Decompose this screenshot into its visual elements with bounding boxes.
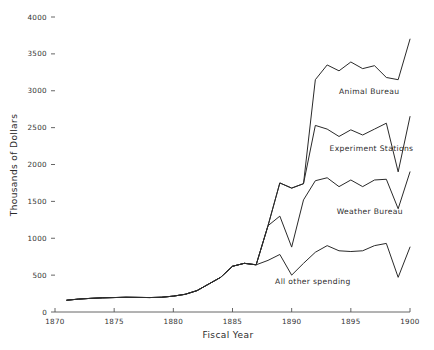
y-tick-label: 2000 (28, 160, 48, 169)
x-tick-label: 1880 (164, 317, 184, 326)
x-tick-label: 1890 (282, 317, 302, 326)
series-line (67, 243, 410, 300)
x-axis-ticks: 1870187518801885189018951900 (45, 308, 420, 326)
series-lines (67, 39, 410, 300)
series-annotation-label: Weather Bureau (337, 207, 403, 216)
y-tick-label: 3500 (28, 49, 48, 58)
y-tick-label: 1500 (28, 197, 48, 206)
y-tick-label: 0 (42, 308, 47, 317)
y-tick-label: 3000 (28, 86, 48, 95)
y-axis-ticks: 05001000150020002500300035004000 (28, 13, 56, 317)
y-tick-label: 4000 (28, 13, 48, 22)
y-tick-label: 2500 (28, 123, 48, 132)
series-annotation-label: Animal Bureau (339, 87, 399, 96)
y-tick-label: 500 (32, 271, 47, 280)
chart-container: 05001000150020002500300035004000 1870187… (0, 0, 434, 350)
x-tick-label: 1875 (104, 317, 124, 326)
x-tick-label: 1885 (223, 317, 243, 326)
series-annotation-label: All other spending (275, 277, 351, 286)
y-axis-title: Thousands of Dollars (9, 114, 19, 217)
y-tick-label: 1000 (28, 234, 48, 243)
series-line (67, 39, 410, 300)
line-chart: 05001000150020002500300035004000 1870187… (0, 0, 434, 350)
series-annotation-label: Experiment Stations (330, 144, 414, 153)
series-line (67, 172, 410, 300)
x-tick-label: 1900 (400, 317, 420, 326)
x-axis-title: Fiscal Year (203, 330, 254, 340)
x-tick-label: 1895 (341, 317, 361, 326)
x-tick-label: 1870 (45, 317, 65, 326)
